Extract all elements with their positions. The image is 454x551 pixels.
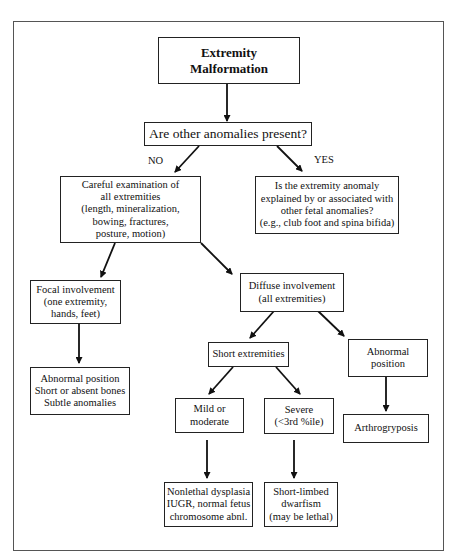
node-text: all extremities [101, 191, 161, 203]
node-focal-findings: Abnormal position Short or absent bones … [30, 367, 130, 415]
node-focal-involvement: Focal involvement (one extremity, hands,… [30, 280, 121, 324]
node-text: Short or absent bones [35, 385, 126, 397]
arrow-short-to-mild [209, 367, 233, 394]
node-text: moderate [190, 416, 229, 428]
node-text: (<3rd %ile) [275, 416, 324, 428]
node-text: Mild or [194, 403, 226, 415]
node-text: explained by or associated with [261, 193, 393, 205]
node-text: position [371, 358, 405, 370]
node-text: Abnormal [367, 346, 410, 358]
node-abnormal-position: Abnormal position [348, 339, 428, 377]
node-severe: Severe (<3rd %ile) [264, 398, 334, 434]
node-arthrogryposis: Arthrogryposis [343, 414, 429, 443]
node-text: (one extremity, [44, 296, 107, 308]
node-text: dwarfism [281, 498, 321, 510]
arrow-diffuse-to-abnormal [318, 311, 344, 336]
node-text: chromosome abnl. [170, 511, 248, 523]
node-text: (length, mineralization, [81, 203, 179, 215]
node-text: other fetal anomalies? [281, 205, 374, 217]
node-mild-moderate: Mild or moderate [175, 398, 244, 433]
node-other-anomalies-question: Are other anomalies present? [144, 122, 312, 146]
node-careful-examination: Careful examination of all extremities (… [60, 176, 201, 243]
node-text: Short-limbed [273, 486, 328, 498]
node-text: Is the extremity anomaly [275, 180, 380, 192]
edge-label-yes: YES [314, 154, 334, 165]
node-text: Careful examination of [82, 179, 179, 191]
node-text: Abnormal position [40, 373, 119, 385]
node-text: Focal involvement [36, 284, 114, 296]
node-text: (all extremities) [259, 293, 326, 305]
node-text: Nonlethal dysplasia [167, 486, 250, 498]
arrow-yes [277, 146, 302, 171]
node-text: Are other anomalies present? [149, 128, 307, 140]
node-text: Extremity [201, 45, 257, 61]
arrow-careful-to-diffuse [201, 243, 232, 274]
arrow-short-to-severe [276, 367, 300, 394]
arrow-diffuse-to-short [250, 311, 274, 338]
node-text: (may be lethal) [269, 511, 333, 523]
node-diffuse-involvement: Diffuse involvement (all extremities) [240, 273, 344, 312]
node-text: posture, motion) [96, 228, 165, 240]
node-text: IUGR, normal fetus [167, 498, 251, 510]
arrow-no [175, 146, 199, 172]
node-text: hands, feet) [51, 308, 100, 320]
node-text: bowing, fractures, [92, 216, 168, 228]
node-text: (e.g., club foot and spina bifida) [260, 217, 395, 229]
node-text: Diffuse involvement [249, 280, 335, 292]
node-short-limbed-dwarfism: Short-limbed dwarfism (may be lethal) [264, 482, 338, 527]
arrow-careful-to-focal [101, 243, 115, 277]
node-short-extremities: Short extremities [208, 342, 289, 367]
node-anomaly-explained: Is the extremity anomaly explained by or… [255, 176, 399, 234]
node-nonlethal-dysplasia: Nonlethal dysplasia IUGR, normal fetus c… [164, 482, 253, 527]
node-text: Short extremities [212, 348, 284, 360]
edge-label-no: NO [148, 155, 163, 166]
node-extremity-malformation: Extremity Malformation [158, 37, 300, 84]
node-text: Subtle anomalies [44, 397, 116, 409]
node-text: Malformation [190, 61, 268, 77]
node-text: Arthrogryposis [354, 422, 418, 434]
node-text: Severe [285, 404, 314, 416]
